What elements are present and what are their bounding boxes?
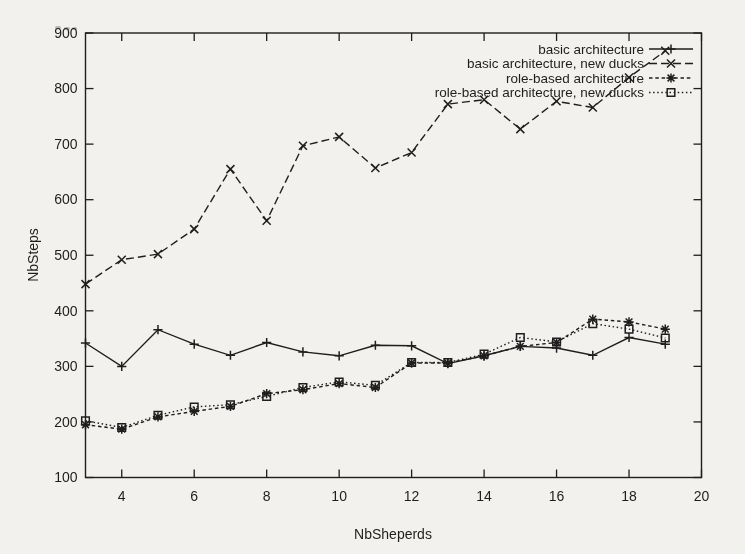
x-tick-label: 16 xyxy=(549,488,565,504)
data-point-marker xyxy=(516,342,525,351)
data-point-marker xyxy=(190,225,198,233)
x-tick-label: 4 xyxy=(118,488,126,504)
data-point-marker xyxy=(661,47,669,55)
series-role-based-architecture-new-ducks xyxy=(82,320,669,432)
data-point-marker xyxy=(335,351,344,360)
y-tick-label: 800 xyxy=(54,80,78,96)
x-tick-label: 12 xyxy=(404,488,420,504)
y-tick-label: 100 xyxy=(54,469,78,485)
y-axis-title: NbSteps xyxy=(25,228,41,282)
y-tick-label: 700 xyxy=(54,136,78,152)
data-point-marker xyxy=(262,338,271,347)
data-point-marker xyxy=(661,325,670,334)
data-point-marker xyxy=(371,164,379,172)
data-point-marker xyxy=(263,217,271,225)
data-point-marker xyxy=(298,347,307,356)
data-point-marker xyxy=(516,125,524,133)
data-point-marker xyxy=(407,341,416,350)
legend-label: role-based architecture, new ducks xyxy=(435,85,645,100)
y-tick-label: 200 xyxy=(54,414,78,430)
data-point-marker xyxy=(408,148,416,156)
x-tick-label: 10 xyxy=(331,488,347,504)
y-tick-label: 600 xyxy=(54,191,78,207)
x-tick-label: 8 xyxy=(263,488,271,504)
x-tick-label: 14 xyxy=(476,488,492,504)
x-tick-label: 6 xyxy=(190,488,198,504)
legend-label: basic architecture, new ducks xyxy=(467,56,644,71)
data-point-marker xyxy=(226,165,234,173)
y-tick-label: 900 xyxy=(54,25,78,41)
line-chart: 4681012141618201002003004005006007008009… xyxy=(0,0,745,554)
series-path xyxy=(86,324,666,428)
legend-marker xyxy=(666,73,675,82)
x-tick-label: 18 xyxy=(621,488,637,504)
data-point-marker xyxy=(226,351,235,360)
data-point-marker xyxy=(190,340,199,349)
data-point-marker xyxy=(624,333,633,342)
series-role-based-architecture xyxy=(81,315,670,434)
y-tick-label: 400 xyxy=(54,303,78,319)
scanned-gnuplot-page: 4681012141618201002003004005006007008009… xyxy=(0,0,745,554)
data-point-marker xyxy=(118,256,126,264)
legend-label: basic architecture xyxy=(538,42,644,57)
legend-label: role-based architecture xyxy=(506,71,644,86)
data-point-marker xyxy=(81,338,90,347)
series-basic-architecture xyxy=(81,325,670,371)
x-axis-title: NbSheperds xyxy=(354,526,432,542)
y-tick-label: 500 xyxy=(54,247,78,263)
series-lines xyxy=(81,47,670,434)
y-tick-label: 300 xyxy=(54,358,78,374)
x-tick-label: 20 xyxy=(694,488,710,504)
data-point-marker xyxy=(588,351,597,360)
data-point-marker xyxy=(371,341,380,350)
legend: basic architecturebasic architecture, ne… xyxy=(435,42,693,101)
